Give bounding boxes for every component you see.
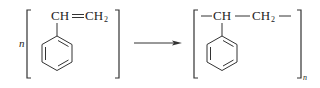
product-repeat-n: n	[303, 73, 307, 82]
product-ch: CH	[213, 8, 231, 23]
reactant-subscript: 2	[104, 15, 108, 24]
product-subscript: 2	[271, 15, 275, 24]
reaction-arrow-icon	[134, 41, 182, 46]
reactant-coefficient: n	[19, 37, 25, 49]
benzene-ring-icon	[42, 36, 72, 71]
right-bracket-open	[194, 10, 198, 78]
product-ch2: CH	[252, 8, 270, 23]
benzene-ring-icon	[207, 36, 237, 71]
reaction-diagram: n CH CH 2 n CH CH 2	[0, 0, 320, 88]
left-bracket-open	[27, 10, 31, 78]
reactant-ch: CH	[51, 8, 69, 23]
right-bracket-close	[297, 10, 301, 78]
left-bracket-close	[115, 10, 119, 78]
reactant-ch2: CH	[85, 8, 103, 23]
